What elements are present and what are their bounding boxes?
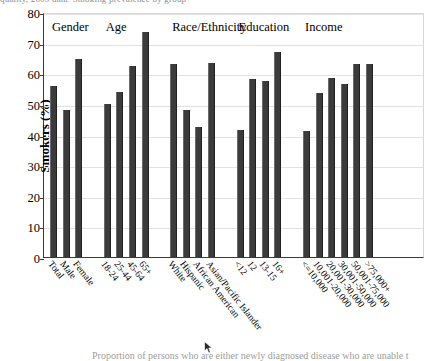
bar [262, 81, 269, 257]
bar [249, 79, 256, 257]
x-axis-category-labels: TotalMaleFemale18-2425-4445-6465+WhiteHi… [43, 259, 424, 359]
bottom-clipped-caption: Proportion of persons who are either new… [0, 350, 430, 361]
bar-series [44, 14, 423, 257]
y-tick-label: 80 [28, 8, 41, 21]
bar [104, 104, 111, 257]
bar [208, 63, 215, 257]
bar [303, 131, 310, 257]
y-tick-label: 40 [28, 130, 41, 143]
bar [129, 66, 136, 257]
bar [341, 84, 348, 257]
top-clipped-caption: quality, 2005 data. Smoking prevalence b… [0, 0, 430, 4]
bar [50, 86, 57, 258]
y-tick-label: 50 [28, 99, 41, 112]
bar [328, 78, 335, 257]
bar [142, 32, 149, 257]
y-tick-label: 10 [28, 222, 41, 235]
plot-area: Smokers (%) 01020304050607080 GenderAgeR… [43, 13, 424, 258]
bar [316, 93, 323, 257]
y-tick-label: 20 [28, 191, 41, 204]
bar [63, 110, 70, 257]
bar-chart-figure: quality, 2005 data. Smoking prevalence b… [0, 0, 430, 361]
bar [75, 59, 82, 257]
bar [366, 64, 373, 257]
bar [183, 110, 190, 257]
mouse-pointer-icon [204, 341, 213, 354]
y-tick-label: 70 [28, 38, 41, 51]
bar [170, 64, 177, 257]
bar [237, 130, 244, 257]
bar [195, 127, 202, 257]
y-tick-label: 60 [28, 69, 41, 82]
y-tick-label: 30 [28, 161, 41, 174]
bar [353, 64, 360, 257]
bar [274, 52, 281, 257]
bar [116, 92, 123, 257]
